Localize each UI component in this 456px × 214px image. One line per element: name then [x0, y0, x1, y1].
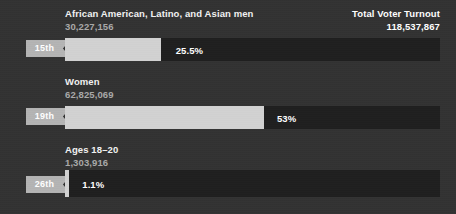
bar-fill: [65, 106, 264, 129]
amendment-tag-26th: 26th: [26, 176, 70, 193]
bar-fill: [65, 38, 161, 61]
amendment-tag-19th: 19th: [26, 108, 70, 125]
series-name: African American, Latino, and Asian men: [65, 8, 254, 19]
total-voter-turnout-label: Total Voter Turnout: [352, 8, 440, 19]
bar-track: 25.5%: [65, 38, 440, 61]
total-voter-turnout-value: 118,537,867: [387, 21, 440, 32]
amendment-tag-label: 19th: [26, 108, 63, 125]
amendment-tag-label: 15th: [26, 40, 63, 57]
bar-track: 1.1%: [65, 170, 440, 197]
amendment-tag-label: 26th: [26, 176, 63, 193]
bar-fill: [65, 170, 69, 197]
bar-percent-label: 53%: [277, 113, 296, 124]
chart-area: African American, Latino, and Asian men …: [0, 4, 456, 207]
series-name: Ages 18–20: [65, 144, 118, 155]
amendment-tag-15th: 15th: [26, 40, 70, 57]
series-name: Women: [65, 76, 100, 87]
bar-track: 53%: [65, 106, 440, 129]
bar-percent-label: 25.5%: [176, 45, 203, 56]
bar-percent-label: 1.1%: [82, 179, 104, 190]
series-count: 30,227,156: [65, 21, 114, 32]
bar-group-labels: Women 62,825,069: [65, 76, 440, 104]
bar-group-labels: African American, Latino, and Asian men …: [65, 8, 440, 36]
voter-turnout-infographic: African American, Latino, and Asian men …: [0, 0, 456, 214]
bar-group-labels: Ages 18–20 1,303,916: [65, 144, 440, 172]
series-count: 1,303,916: [65, 157, 108, 168]
series-count: 62,825,069: [65, 89, 114, 100]
